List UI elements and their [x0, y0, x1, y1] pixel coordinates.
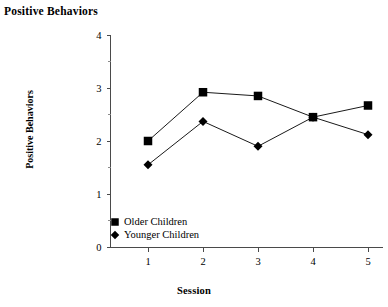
data-point-square: [144, 137, 153, 146]
series-lines: [148, 92, 368, 165]
x-tick-label: 4: [310, 256, 316, 267]
x-axis: 12345: [111, 247, 384, 267]
data-point-diamond: [364, 130, 373, 139]
data-point-square: [364, 101, 373, 110]
y-axis: 01234: [96, 30, 110, 253]
x-tick-label: 3: [255, 256, 260, 267]
chart-figure: Positive Behaviors Positive Behaviors 01…: [0, 0, 388, 307]
y-tick-label: 4: [96, 30, 102, 41]
legend-label: Younger Children: [124, 229, 200, 240]
y-tick-label: 2: [96, 136, 101, 147]
series-markers: [144, 88, 373, 169]
legend-marker-square: [111, 218, 119, 226]
x-axis-tick-labels: 12345: [145, 256, 370, 267]
y-tick-label: 0: [96, 242, 101, 253]
chart-legend: Older ChildrenYounger Children: [111, 216, 200, 240]
y-axis-tick-labels: 01234: [96, 30, 102, 253]
x-tick-label: 5: [365, 256, 370, 267]
legend-label: Older Children: [124, 216, 188, 227]
y-tick-label: 1: [96, 189, 101, 200]
data-point-square: [199, 88, 208, 97]
data-point-square: [254, 92, 263, 101]
x-tick-label: 2: [200, 256, 205, 267]
x-tick-label: 1: [145, 256, 150, 267]
data-point-diamond: [254, 142, 263, 151]
legend-marker-diamond: [111, 231, 120, 240]
series-line-2: [148, 117, 368, 165]
x-axis-label: Session: [0, 285, 388, 296]
y-axis-major-ticks: [107, 35, 111, 247]
data-point-diamond: [144, 160, 153, 169]
y-tick-label: 3: [96, 83, 101, 94]
data-point-diamond: [199, 117, 208, 126]
plot-area: 01234 12345 Older ChildrenYounger Childr…: [0, 0, 388, 307]
